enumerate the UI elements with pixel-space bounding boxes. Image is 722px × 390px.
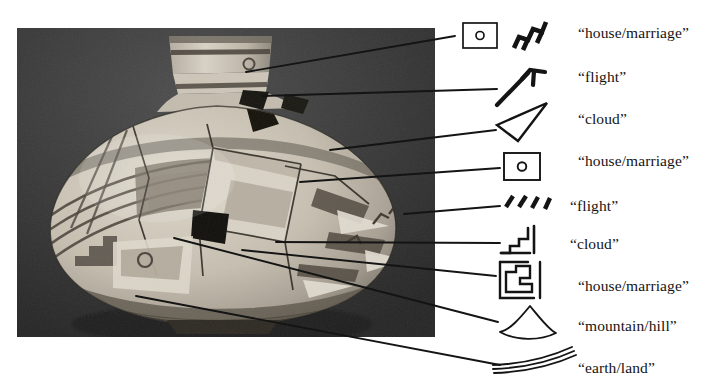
glyph-squared-spiral-fret — [500, 262, 540, 298]
glyph-rectangle-with-dot-2 — [504, 153, 540, 180]
callout-label-7: “house/marriage” — [578, 277, 689, 295]
glyph-rectangle-with-dot-1 — [463, 23, 497, 48]
glyph-flight-flag — [497, 70, 545, 105]
callout-label-6: “cloud” — [570, 235, 619, 253]
figure-annotated-vessel: “house/marriage” “flight” “cloud” “house… — [0, 0, 722, 390]
callout-label-4: “house/marriage” — [578, 152, 689, 170]
vessel-photo-graphic — [17, 28, 435, 337]
glyph-mountain-hill — [500, 306, 556, 339]
callout-label-9: “earth/land” — [578, 359, 655, 377]
glyph-tilted-fret — [514, 22, 546, 50]
callout-label-5: “flight” — [570, 197, 618, 215]
callout-label-1: “house/marriage” — [578, 24, 689, 42]
callout-label-3: “cloud” — [578, 110, 627, 128]
callout-label-2: “flight” — [578, 68, 626, 86]
glyph-cloud-wedge — [497, 103, 547, 141]
callout-label-8: “mountain/hill” — [578, 317, 677, 335]
ceramic-vessel-photograph — [17, 28, 435, 337]
glyph-earth-land — [493, 347, 576, 373]
glyph-flight-ticks — [506, 196, 550, 209]
glyph-cloud-stair — [501, 226, 534, 253]
